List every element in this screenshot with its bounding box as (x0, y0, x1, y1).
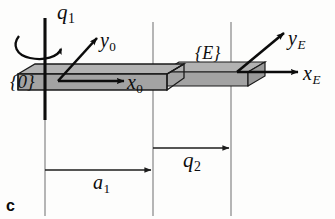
dimension-lines (45, 148, 229, 170)
dimension-label-q2: q2 (183, 150, 200, 171)
link-1-outer-prism (18, 64, 184, 90)
link-1-top-face (18, 64, 184, 74)
joint-label-q1: q1 (57, 2, 74, 23)
figure-container: q1 y0 x0 yE xE a1 q2 {0} {E} c (0, 0, 335, 219)
axis-label-y0: y0 (100, 30, 115, 50)
dimension-label-a1: a1 (93, 172, 110, 192)
diagram-canvas (0, 0, 335, 219)
figure-caption-letter: c (6, 198, 15, 214)
rotation-arc-arrow (16, 36, 61, 59)
axis-label-xE: xE (303, 63, 320, 83)
axis-label-yE: yE (288, 28, 305, 48)
frame-label-end-effector: {E} (195, 44, 220, 62)
axis-label-x0: x0 (127, 72, 142, 92)
frame-label-base: {0} (10, 72, 35, 91)
